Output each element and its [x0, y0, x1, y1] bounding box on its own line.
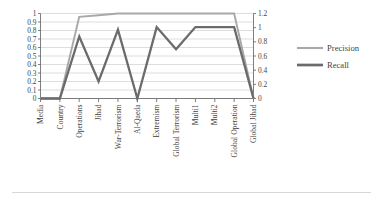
left-axis-tick-label: 0.6: [27, 43, 37, 52]
left-axis-tick-label: 1: [33, 9, 37, 18]
legend-label-precision: Precision: [327, 43, 360, 53]
series-line-recall: [41, 27, 254, 98]
right-axis-ticks: 00.20.40.60.811.2: [254, 9, 268, 103]
category-label: Multi2: [210, 104, 219, 125]
category-label: Multi1: [191, 104, 200, 125]
left-axis-tick-label: 0.3: [27, 69, 37, 78]
category-label: Extremism: [152, 104, 161, 137]
category-labels: MediaCountryOperationsJihadWar-Terrorism…: [36, 104, 258, 158]
left-axis-tick-label: 0.8: [27, 26, 37, 35]
right-axis-tick-label: 0: [258, 94, 262, 103]
left-axis-tick-label: 0.5: [27, 52, 37, 61]
left-axis-tick-label: 0.2: [27, 77, 37, 86]
chart-figure: 00.10.20.30.40.50.60.70.80.91 00.20.40.6…: [0, 0, 383, 200]
category-label: War-Terrorism: [114, 104, 123, 149]
right-axis-tick-label: 1: [258, 23, 262, 32]
category-label: Country: [56, 104, 65, 129]
legend: PrecisionRecall: [297, 43, 360, 70]
category-label: Global Operation: [230, 104, 239, 157]
left-axis-tick-label: 0.4: [27, 60, 37, 69]
category-label: Jihad: [94, 104, 103, 120]
footer-divider: [12, 192, 371, 193]
precision-recall-line-chart: 00.10.20.30.40.50.60.70.80.91 00.20.40.6…: [0, 0, 383, 200]
category-label: Global Terrorism: [172, 104, 181, 156]
right-axis-tick-label: 0.4: [258, 66, 268, 75]
legend-label-recall: Recall: [327, 60, 350, 70]
left-axis-tick-label: 0.9: [27, 18, 37, 27]
left-axis-ticks: 00.10.20.30.40.50.60.70.80.91: [27, 9, 40, 103]
category-label: Global Jihad: [249, 104, 258, 143]
right-axis-tick-label: 0.2: [258, 80, 268, 89]
left-axis-tick-label: 0: [33, 94, 37, 103]
x-axis-ticks: [41, 99, 254, 103]
category-label: Operations: [75, 104, 84, 137]
category-label: Al-Qaeda: [133, 104, 142, 134]
right-axis-tick-label: 1.2: [258, 9, 268, 18]
right-axis-tick-label: 0.8: [258, 37, 268, 46]
left-axis-tick-label: 0.1: [27, 86, 37, 95]
left-axis-tick-label: 0.7: [27, 35, 37, 44]
right-axis-tick-label: 0.6: [258, 52, 268, 61]
category-label: Media: [36, 104, 45, 124]
